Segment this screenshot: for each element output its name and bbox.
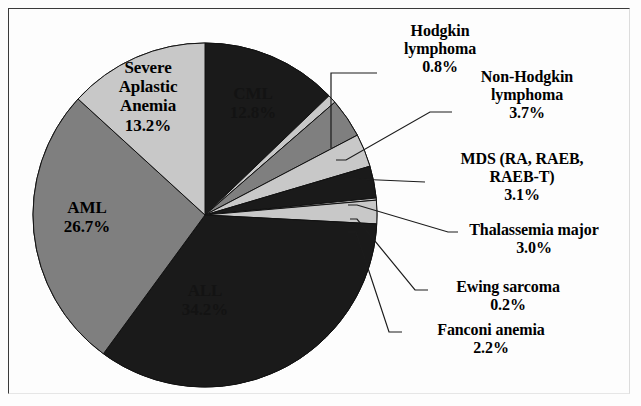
leader-line-mds xyxy=(345,179,425,182)
leader-line-hodgkin-lymphoma xyxy=(331,73,377,148)
slice-label-thalassemia-major: Thalassemia major 3.0% xyxy=(440,221,628,257)
slice-label-fanconi-anemia: Fanconi anemia 2.2% xyxy=(396,321,586,357)
slice-label-all: ALL 34.2% xyxy=(168,281,242,319)
slice-label-ewing-sarcoma: Ewing sarcoma 0.2% xyxy=(420,278,596,314)
slice-label-aml: AML 26.7% xyxy=(44,198,130,236)
pie-chart-figure: Severe Aplastic Anemia 13.2% CML 12.8% A… xyxy=(0,0,641,406)
leader-line-fanconi-anemia xyxy=(348,232,402,332)
slice-label-mds: MDS (RA, RAEB, RAEB-T) 3.1% xyxy=(424,150,620,204)
leader-line-ewing-sarcoma xyxy=(350,219,428,290)
slice-label-non-hodgkin-lymphoma: Non-Hodgkin lymphoma 3.7% xyxy=(452,68,602,122)
slice-label-severe-aplastic-anemia: Severe Aplastic Anemia 13.2% xyxy=(96,58,200,135)
slice-label-cml: CML 12.8% xyxy=(216,84,290,122)
